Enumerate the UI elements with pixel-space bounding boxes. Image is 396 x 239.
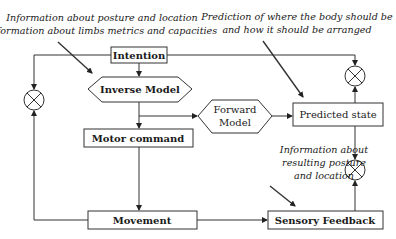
svg-text:Information about limbs metric: Information about limbs metrics and capa… xyxy=(0,25,217,36)
svg-text:Motor command: Motor command xyxy=(92,133,184,144)
svg-text:Information about: Information about xyxy=(279,144,368,155)
comparator-left-icon xyxy=(24,90,44,110)
svg-text:resulting posture: resulting posture xyxy=(282,157,366,168)
svg-text:Model: Model xyxy=(219,117,251,128)
svg-text:Information about posture and: Information about posture and location xyxy=(5,12,197,23)
svg-text:and how it should be arranged: and how it should be arranged xyxy=(222,24,371,35)
svg-text:and location: and location xyxy=(294,170,354,181)
node-sensory-feedback: Sensory Feedback xyxy=(268,211,383,229)
svg-text:Intention: Intention xyxy=(113,50,166,61)
node-predicted-state: Predicted state xyxy=(293,103,383,126)
svg-text:Movement: Movement xyxy=(113,215,172,226)
annotation-top-right: Prediction of where the body should be a… xyxy=(200,11,393,35)
svg-text:Inverse Model: Inverse Model xyxy=(100,84,180,95)
node-forward-model: Forward Model xyxy=(198,100,272,133)
node-movement: Movement xyxy=(88,211,197,229)
comparator-top-right-icon xyxy=(345,66,365,86)
node-motor-command: Motor command xyxy=(84,129,193,147)
svg-text:Predicted state: Predicted state xyxy=(299,109,376,120)
annotation-arrow-predicted xyxy=(263,41,303,97)
annotation-top-left: Information about posture and location I… xyxy=(0,12,217,36)
svg-text:Prediction of where the body s: Prediction of where the body should be xyxy=(200,11,393,22)
svg-text:Sensory Feedback: Sensory Feedback xyxy=(275,215,377,226)
svg-text:Forward: Forward xyxy=(214,104,257,115)
edge-intention-top-comparator xyxy=(167,55,355,65)
node-intention: Intention xyxy=(111,47,167,63)
edge-movement-left-comparator xyxy=(34,111,88,220)
node-inverse-model: Inverse Model xyxy=(88,77,192,102)
annotation-arrow-inverse xyxy=(58,42,92,73)
motor-control-diagram: Information about posture and location I… xyxy=(0,0,396,239)
annotation-arrow-sensory xyxy=(270,186,295,206)
